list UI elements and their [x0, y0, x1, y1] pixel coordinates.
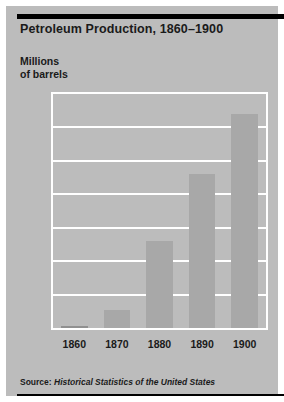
- bar: [231, 114, 257, 328]
- plot-area: [51, 92, 268, 330]
- chart-card: Petroleum Production, 1860–1900 Millions…: [6, 6, 278, 396]
- y-axis-label: Millions of barrels: [20, 55, 68, 80]
- chart-figure: Petroleum Production, 1860–1900 Millions…: [0, 0, 284, 402]
- bar: [146, 241, 172, 328]
- x-axis-tick-label: 1880: [148, 338, 171, 350]
- source-prefix: Source:: [20, 377, 54, 387]
- bottom-rule: [17, 394, 284, 396]
- x-axis-tick-label: 1890: [190, 338, 213, 350]
- bar: [61, 326, 87, 328]
- source-note: Source: Historical Statistics of the Uni…: [20, 377, 215, 387]
- x-axis-tick-label: 1860: [63, 338, 86, 350]
- y-axis-label-line2: of barrels: [20, 68, 68, 81]
- x-axis-tick-label: 1870: [105, 338, 128, 350]
- bar: [189, 174, 215, 328]
- bar: [104, 310, 130, 328]
- top-rule: [17, 14, 284, 19]
- source-title: Historical Statistics of the United Stat…: [54, 377, 215, 387]
- chart-title: Petroleum Production, 1860–1900: [20, 22, 223, 36]
- y-axis-label-line1: Millions: [20, 55, 68, 68]
- x-axis-ticks: 18601870188018901900: [51, 338, 268, 354]
- x-axis-tick-label: 1900: [233, 338, 256, 350]
- bar-series: [53, 94, 266, 328]
